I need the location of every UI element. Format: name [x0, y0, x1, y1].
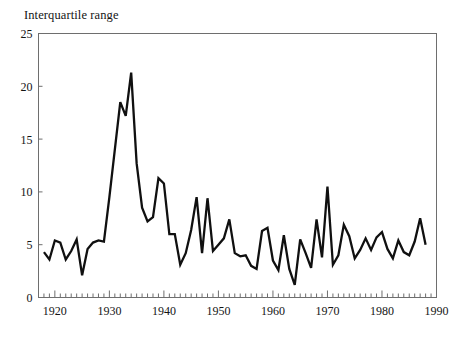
x-tick-label: 1980: [370, 304, 394, 318]
y-tick-label: 5: [27, 238, 33, 252]
x-tick-label: 1970: [315, 304, 339, 318]
y-tick-label: 15: [21, 133, 33, 147]
x-tick-label: 1960: [261, 304, 285, 318]
chart-page: Interquartile range 0510152025 192019301…: [0, 0, 463, 340]
plot-frame: [39, 34, 437, 298]
y-tick-label: 25: [21, 27, 33, 41]
x-tick-label: 1930: [97, 304, 121, 318]
x-axis-ticks: [44, 291, 437, 298]
y-tick-label: 0: [27, 291, 33, 305]
x-tick-label: 1950: [206, 304, 230, 318]
x-tick-label: 1990: [425, 304, 449, 318]
data-series-line: [44, 73, 426, 285]
x-tick-label: 1920: [43, 304, 67, 318]
y-axis-ticks: [39, 34, 43, 298]
x-tick-label: 1940: [152, 304, 176, 318]
y-tick-label: 10: [21, 185, 33, 199]
chart-figure: 0510152025 19201930194019501960197019801…: [0, 0, 463, 340]
y-axis-labels: 0510152025: [21, 27, 33, 305]
y-tick-label: 20: [21, 80, 33, 94]
x-axis-labels: 19201930194019501960197019801990: [43, 304, 449, 318]
